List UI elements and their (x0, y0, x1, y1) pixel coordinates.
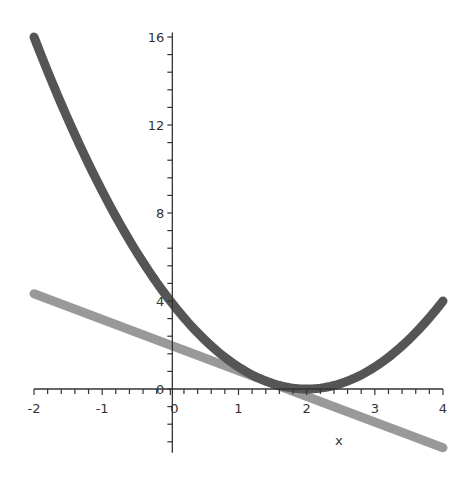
y-tick-label: 8 (156, 206, 164, 221)
x-tick-label: 2 (303, 401, 311, 416)
x-tick-label: -2 (28, 401, 41, 416)
y-tick-label: 12 (148, 118, 165, 133)
chart-labels: -2-1012340481216x (28, 30, 448, 448)
x-tick-label: 0 (170, 401, 178, 416)
x-tick-label: 4 (439, 401, 447, 416)
x-axis-label: x (335, 433, 343, 448)
parabola-curve (34, 37, 443, 389)
x-tick-label: 3 (371, 401, 379, 416)
chart-plot: -2-1012340481216x (0, 0, 472, 484)
x-tick-label: 1 (234, 401, 242, 416)
x-tick-label: -1 (96, 401, 109, 416)
y-tick-label: 16 (148, 30, 165, 45)
chart-curves (34, 37, 443, 448)
y-tick-label: 4 (156, 294, 164, 309)
y-tick-label: 0 (156, 382, 164, 397)
chart-axes (34, 33, 443, 453)
